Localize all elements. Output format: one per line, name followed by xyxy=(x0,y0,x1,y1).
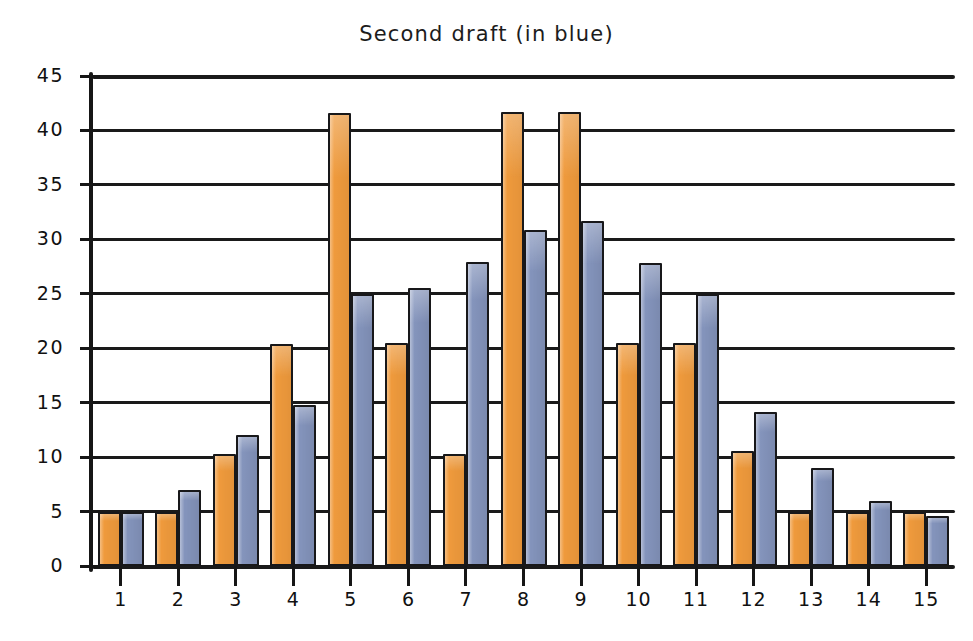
y-axis-tick xyxy=(80,129,100,132)
x-axis-tick-label: 3 xyxy=(216,588,256,610)
x-axis-tick-label: 2 xyxy=(158,588,198,610)
x-axis-tick-label: 14 xyxy=(849,588,889,610)
y-axis-tick xyxy=(80,401,100,404)
x-axis-tick xyxy=(867,566,870,586)
x-axis-ticks-and-labels: 123456789101112131415 xyxy=(0,0,973,641)
x-axis-tick xyxy=(234,566,237,586)
x-axis-tick-label: 1 xyxy=(101,588,141,610)
y-axis-tick xyxy=(80,456,100,459)
x-axis-tick-label: 4 xyxy=(273,588,313,610)
x-axis-tick xyxy=(292,566,295,586)
x-axis-tick-label: 9 xyxy=(561,588,601,610)
x-axis-tick-label: 15 xyxy=(906,588,946,610)
x-axis-tick-label: 6 xyxy=(388,588,428,610)
x-axis-tick xyxy=(810,566,813,586)
x-axis-tick xyxy=(349,566,352,586)
x-axis-tick xyxy=(407,566,410,586)
x-axis-tick-label: 10 xyxy=(619,588,659,610)
y-axis-tick xyxy=(80,183,100,186)
y-axis-tick xyxy=(80,565,100,568)
x-axis-tick-label: 11 xyxy=(676,588,716,610)
x-axis-tick xyxy=(464,566,467,586)
x-axis-tick xyxy=(580,566,583,586)
x-axis-tick xyxy=(522,566,525,586)
x-axis-tick-label: 8 xyxy=(504,588,544,610)
y-axis-tick xyxy=(80,75,100,78)
bar-chart: Second draft (in blue) 05101520253035404… xyxy=(0,0,973,641)
x-axis-tick-label: 5 xyxy=(331,588,371,610)
x-axis-tick xyxy=(637,566,640,586)
x-axis-tick xyxy=(695,566,698,586)
y-axis-tick xyxy=(80,510,100,513)
x-axis-tick-label: 12 xyxy=(734,588,774,610)
y-axis-tick xyxy=(80,347,100,350)
x-axis-tick xyxy=(925,566,928,586)
x-axis-tick xyxy=(752,566,755,586)
x-axis-tick-label: 7 xyxy=(446,588,486,610)
x-axis-tick xyxy=(177,566,180,586)
x-axis-tick-label: 13 xyxy=(791,588,831,610)
x-axis-tick xyxy=(119,566,122,586)
y-axis-tick xyxy=(80,238,100,241)
y-axis-tick xyxy=(80,292,100,295)
